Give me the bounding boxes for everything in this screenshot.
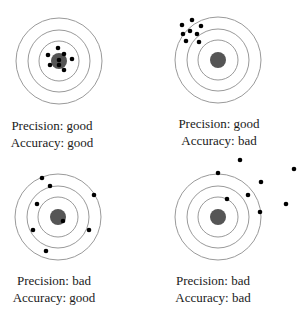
- bullseye: [210, 209, 226, 225]
- target-imprecise-accurate: [15, 174, 101, 260]
- shot-dot: [57, 58, 62, 63]
- shot-dot: [181, 32, 186, 37]
- bullseye: [210, 52, 226, 68]
- target-imprecise-inaccurate: [175, 158, 296, 260]
- shot-dot: [31, 228, 36, 233]
- shot-dot: [292, 167, 297, 172]
- accuracy-label: Accuracy: good: [11, 135, 94, 151]
- shot-dot: [225, 197, 230, 202]
- shot-dot: [70, 57, 75, 62]
- shot-dot: [61, 219, 66, 224]
- shot-dot: [258, 210, 263, 215]
- shot-dot: [246, 193, 251, 198]
- precision-label: Precision: bad: [176, 273, 250, 289]
- shot-dot: [259, 180, 264, 185]
- shot-dot: [40, 176, 45, 181]
- accuracy-label: Accuracy: bad: [181, 133, 256, 149]
- target-precise-accurate: [16, 18, 102, 104]
- shot-dot: [180, 23, 185, 28]
- shot-dot: [184, 39, 189, 44]
- shot-dot: [48, 184, 53, 189]
- shot-dot: [284, 202, 289, 207]
- precision-label: Precision: good: [178, 116, 259, 132]
- shot-dot: [190, 18, 195, 23]
- target-precise-inaccurate: [175, 17, 261, 103]
- shot-dot: [62, 68, 67, 73]
- shot-dot: [48, 63, 53, 68]
- shot-dot: [44, 249, 49, 254]
- shot-dot: [199, 24, 204, 29]
- shot-dot: [62, 52, 67, 57]
- shot-dot: [195, 32, 200, 37]
- shot-dot: [216, 171, 221, 176]
- shot-dot: [92, 193, 97, 198]
- shot-dot: [35, 202, 40, 207]
- shot-dot: [188, 29, 193, 34]
- shot-dot: [46, 53, 51, 58]
- shot-dot: [87, 228, 92, 233]
- shot-dot: [197, 40, 202, 45]
- precision-label: Precision: good: [11, 118, 92, 134]
- target-diagram: [0, 0, 304, 319]
- accuracy-label: Accuracy: good: [13, 290, 96, 306]
- shot-dot: [57, 63, 62, 68]
- shot-dot: [238, 158, 243, 163]
- precision-label: Precision: bad: [17, 273, 91, 289]
- accuracy-label: Accuracy: bad: [175, 290, 250, 306]
- shot-dot: [56, 46, 61, 51]
